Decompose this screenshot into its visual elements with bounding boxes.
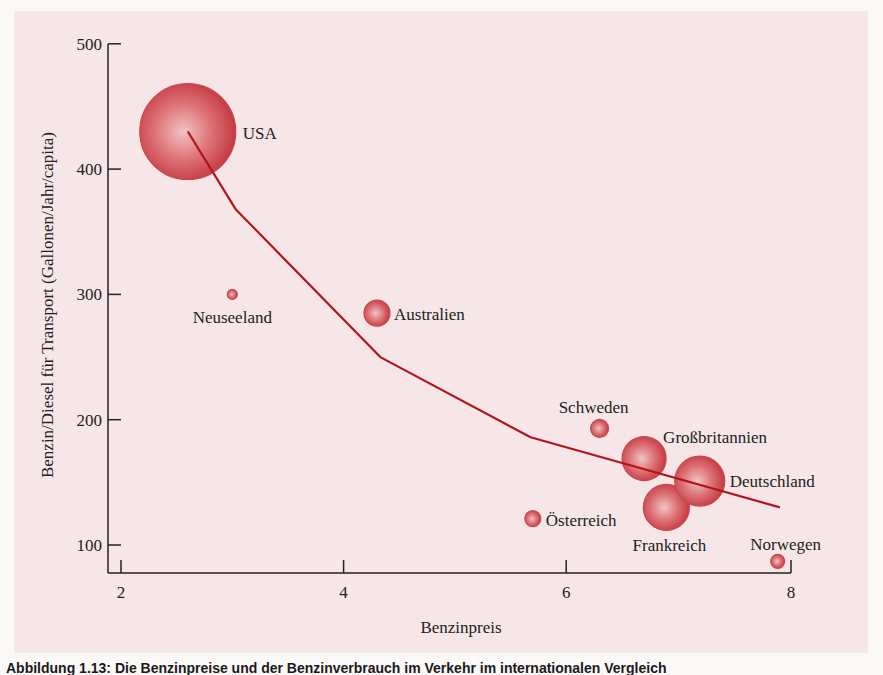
y-tick-label: 100: [77, 536, 103, 555]
labels: USANeuseelandAustralienSchwedenGroßbrita…: [193, 124, 822, 556]
x-tick-label: 8: [787, 583, 796, 602]
label-usa: USA: [243, 124, 278, 143]
bubble-australien: [364, 300, 390, 326]
trend-line: [188, 132, 780, 508]
bubble-usa: [140, 84, 236, 180]
y-tick-label: 500: [77, 35, 103, 54]
label-frankreich: Frankreich: [633, 536, 707, 555]
trend-polyline: [188, 132, 780, 508]
figure-caption: Abbildung 1.13: Die Benzinpreise und der…: [6, 656, 876, 675]
label-deutschland: Deutschland: [730, 472, 815, 491]
x-axis-label: Benzinpreis: [420, 618, 501, 637]
bubble-deutschland: [675, 456, 725, 506]
label-neuseeland: Neuseeland: [193, 308, 273, 327]
bubble-neuseeland: [227, 289, 237, 299]
x-tick-label: 4: [339, 583, 348, 602]
label-norwegen: Norwegen: [750, 535, 821, 554]
x-tick-label: 2: [117, 583, 126, 602]
label-österreich: Österreich: [546, 511, 617, 530]
bubble-norwegen: [771, 554, 785, 568]
label-schweden: Schweden: [559, 398, 629, 417]
label-großbritannien: Großbritannien: [663, 428, 767, 447]
bubble-österreich: [525, 511, 541, 527]
x-tick-label: 6: [562, 583, 571, 602]
bubble-schweden: [591, 419, 609, 437]
label-australien: Australien: [394, 305, 465, 324]
y-axis-label: Benzin/Diesel für Transport (Gallonen/Ja…: [38, 132, 57, 478]
bubble-chart: 1002003004005002468BenzinpreisBenzin/Die…: [0, 0, 883, 656]
y-tick-label: 300: [77, 285, 103, 304]
y-tick-label: 200: [77, 411, 103, 430]
y-tick-label: 400: [77, 160, 103, 179]
